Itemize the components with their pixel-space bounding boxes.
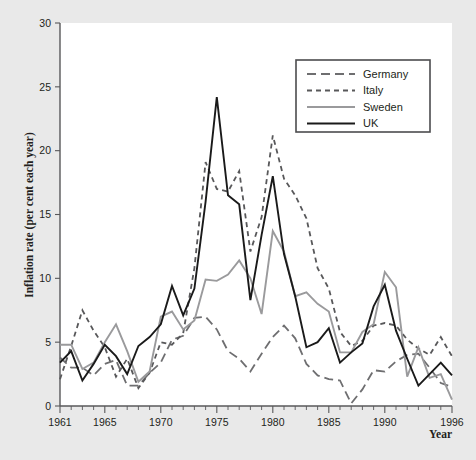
y-tick-label: 5 [45, 336, 51, 348]
x-tick-label: 1961 [48, 416, 72, 428]
x-tick-label: 1965 [93, 416, 117, 428]
chart-legend: GermanyItalySwedenUK [296, 60, 430, 132]
x-axis-title: Year [429, 428, 452, 440]
y-tick-label: 30 [39, 17, 51, 29]
legend-label-sweden: Sweden [363, 101, 403, 113]
x-tick-label: 1970 [149, 416, 173, 428]
y-tick-label: 20 [39, 144, 51, 156]
x-tick-label: 1980 [261, 416, 285, 428]
y-tick-label: 25 [39, 81, 51, 93]
x-tick-label: 1975 [205, 416, 229, 428]
x-tick-label: 1985 [317, 416, 341, 428]
legend-label-uk: UK [363, 117, 379, 129]
y-tick-label: 0 [45, 400, 51, 412]
y-tick-label: 10 [39, 272, 51, 284]
y-tick-label: 15 [39, 208, 51, 220]
x-tick-label: 1990 [373, 416, 397, 428]
y-axis-title: Inflation rate (per cent each year) [23, 132, 36, 298]
x-tick-label: 1996 [440, 416, 464, 428]
inflation-rate-line-chart: 051015202530 196119651970197519801985199… [0, 0, 476, 460]
legend-label-italy: Italy [363, 84, 384, 96]
legend-label-germany: Germany [363, 68, 409, 80]
